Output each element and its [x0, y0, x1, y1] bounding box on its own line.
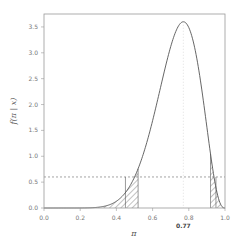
x-tick-label: 0.0	[39, 214, 49, 221]
mode-label: 0.77	[176, 222, 191, 229]
y-axis-title: f(π | x)	[9, 98, 18, 126]
shaded-tail-1	[98, 169, 138, 208]
x-tick-label: 1.0	[220, 214, 230, 221]
y-tick-label: 2.0	[28, 101, 38, 108]
y-tick-label: 0.0	[28, 204, 38, 211]
x-tick-label: 0.8	[184, 214, 194, 221]
plot-area	[44, 22, 225, 208]
x-tick-label: 0.2	[75, 214, 85, 221]
density-chart: 0.00.20.40.60.81.00.770.00.51.01.52.02.5…	[0, 0, 240, 247]
y-tick-label: 3.5	[28, 23, 38, 30]
y-tick-label: 0.5	[28, 178, 38, 185]
x-tick-label: 0.6	[148, 214, 158, 221]
x-axis-title: π	[130, 229, 137, 238]
x-tick-label: 0.4	[112, 214, 122, 221]
y-tick-label: 2.5	[28, 75, 38, 82]
y-tick-label: 3.0	[28, 49, 38, 56]
y-tick-label: 1.5	[28, 126, 38, 133]
y-tick-label: 1.0	[28, 152, 38, 159]
shaded-tail-2	[211, 154, 225, 208]
